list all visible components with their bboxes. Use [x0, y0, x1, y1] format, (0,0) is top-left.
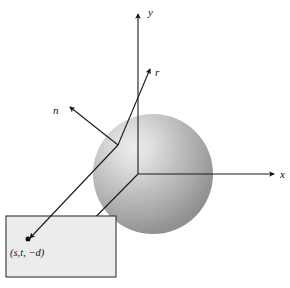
figure-canvas: y x z (s,t, −d) r n: [0, 0, 290, 288]
normal-vector-label: n: [53, 104, 59, 116]
y-axis-label: y: [147, 6, 153, 18]
sample-point-label: (s,t, −d): [10, 247, 45, 259]
x-axis-label: x: [279, 168, 285, 180]
normal-vector: [70, 107, 118, 145]
reflected-ray-label: r: [155, 66, 160, 78]
ray-sphere-diagram: y x z (s,t, −d) r n: [0, 0, 290, 288]
sample-point-dot: [26, 237, 31, 242]
